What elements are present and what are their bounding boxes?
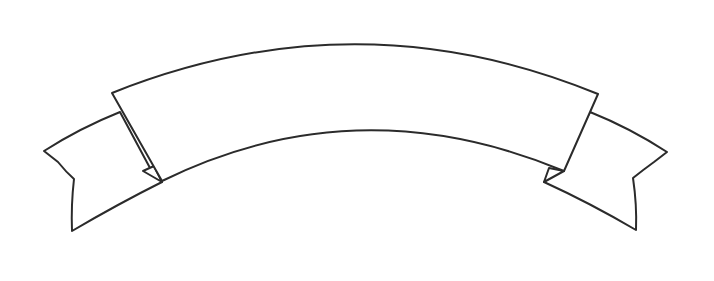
- ribbon-banner-graphic: [0, 0, 714, 281]
- main-band: [112, 44, 598, 181]
- ribbon-banner-canvas: [0, 0, 714, 281]
